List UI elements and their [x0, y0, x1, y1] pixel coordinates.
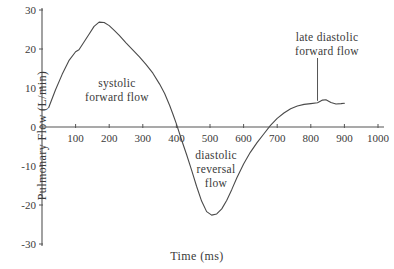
x-tick-label: 600	[235, 133, 252, 144]
x-tick-label: 300	[135, 133, 152, 144]
x-tick-label: 100	[67, 133, 84, 144]
x-tick-label: 500	[202, 133, 219, 144]
x-tick-label: 800	[303, 133, 320, 144]
y-tick-label: -30	[2, 239, 36, 250]
x-axis-title: Time (ms)	[0, 249, 394, 264]
y-tick-label: 10	[2, 83, 36, 94]
x-tick-label: 1000	[367, 133, 389, 144]
y-tick-label: 0	[2, 122, 36, 133]
y-tick-label: 20	[2, 44, 36, 55]
annotation-late-line1: late diastolic	[272, 30, 382, 44]
pulmonary-flow-chart: Pulmonary Flow (L/min) Time (ms) 3020100…	[0, 0, 394, 269]
y-tick-label: -20	[2, 200, 36, 211]
annotation-systolic-line1: systolic	[62, 76, 172, 90]
annotation-systolic-line2: forward flow	[62, 90, 172, 104]
x-tick-label: 900	[336, 133, 353, 144]
annotation-late-line2: forward flow	[272, 44, 382, 58]
annotation-late-diastolic-forward-flow: late diastolic forward flow	[272, 30, 382, 58]
annotation-diastolic-line1: diastolic	[168, 148, 264, 162]
x-tick-label: 200	[101, 133, 118, 144]
y-tick-label: -10	[2, 161, 36, 172]
annotation-diastolic-line3: flow	[168, 176, 264, 190]
annotation-diastolic-line2: reversal	[168, 162, 264, 176]
annotation-diastolic-reversal-flow: diastolic reversal flow	[168, 148, 264, 190]
x-tick-label: 400	[168, 133, 185, 144]
annotation-systolic-forward-flow: systolic forward flow	[62, 76, 172, 104]
y-tick-label: 30	[2, 5, 36, 16]
x-tick-label: 700	[269, 133, 286, 144]
y-axis-title: Pulmonary Flow (L/min)	[35, 36, 50, 236]
